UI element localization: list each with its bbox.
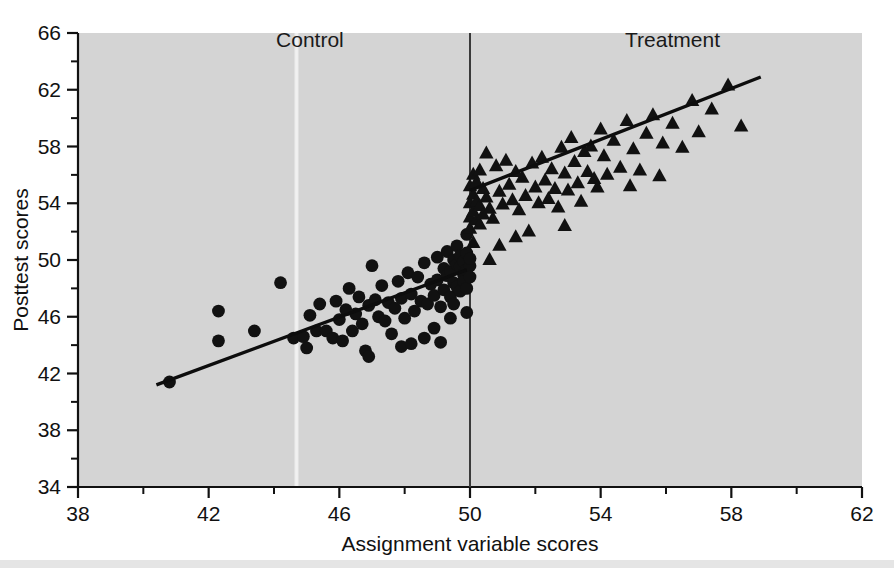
data-point-circle [300,342,313,355]
x-axis-title: Assignment variable scores [342,532,599,555]
control-group-label: Control [276,28,344,51]
data-point-circle [460,282,473,295]
scan-artifact-streaks [296,33,297,487]
x-tick-label: 50 [458,502,481,525]
data-point-circle [353,290,366,303]
data-point-circle [304,309,317,322]
data-point-circle [434,300,447,313]
x-tick-label: 46 [328,502,351,525]
data-point-circle [460,306,473,319]
data-point-circle [428,322,441,335]
data-point-circle [362,350,375,363]
y-tick-label: 50 [38,248,61,271]
scatter-plot-svg: 38424650545862 343842465054586266 Contro… [0,0,894,568]
data-point-circle [464,252,477,265]
data-point-circle [330,295,343,308]
data-point-circle [274,276,287,289]
y-axis-title: Posttest scores [9,188,32,332]
data-point-circle [418,256,431,269]
page-edge-smudge [0,560,894,568]
data-point-circle [343,282,356,295]
chart-figure: 38424650545862 343842465054586266 Contro… [0,0,894,568]
data-point-circle [405,337,418,350]
data-point-circle [313,298,326,311]
data-point-circle [356,317,369,330]
y-tick-label: 46 [38,305,61,328]
data-point-circle [336,334,349,347]
data-point-circle [366,259,379,272]
y-tick-label: 34 [38,475,62,498]
y-tick-label: 42 [38,362,61,385]
data-point-circle [248,325,261,338]
data-point-circle [212,305,225,318]
data-point-circle [418,332,431,345]
data-point-circle [444,312,457,325]
x-tick-label: 38 [66,502,89,525]
y-axis-tick-labels: 343842465054586266 [38,21,62,498]
data-point-circle [464,271,477,284]
data-point-circle [392,275,405,288]
x-tick-label: 62 [850,502,873,525]
data-point-circle [379,315,392,328]
y-tick-label: 38 [38,418,61,441]
y-tick-label: 66 [38,21,61,44]
data-point-circle [375,279,388,292]
y-tick-label: 58 [38,135,61,158]
data-point-circle [212,334,225,347]
y-tick-label: 54 [38,191,62,214]
data-point-circle [447,298,460,311]
data-point-circle [411,271,424,284]
x-tick-label: 54 [589,502,613,525]
x-tick-label: 42 [197,502,220,525]
y-tick-label: 62 [38,78,61,101]
data-point-circle [434,336,447,349]
data-point-circle [385,327,398,340]
x-tick-label: 58 [720,502,743,525]
treatment-group-label: Treatment [625,28,720,51]
